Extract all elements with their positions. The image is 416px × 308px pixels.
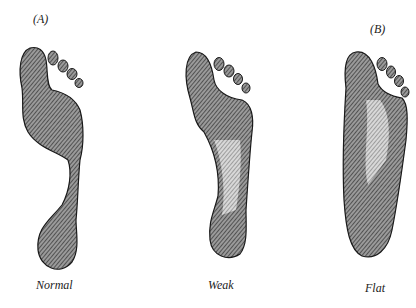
caption-weak: Weak	[208, 278, 234, 293]
footprint-flat	[343, 52, 409, 257]
caption-normal: Normal	[36, 278, 73, 293]
footprint-normal	[20, 48, 83, 270]
footprint-weak	[186, 52, 253, 258]
footprints-diagram	[0, 0, 416, 308]
caption-flat: Flat	[365, 281, 385, 296]
